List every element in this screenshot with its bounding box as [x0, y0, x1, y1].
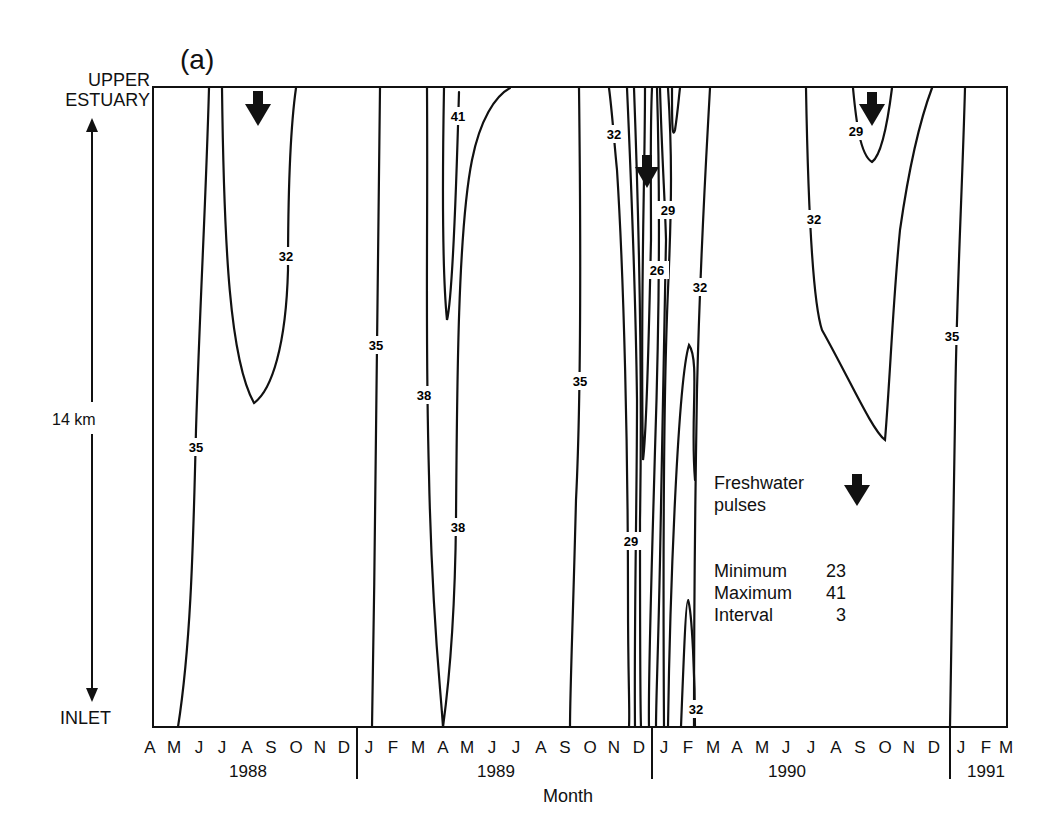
contour-label: 35	[189, 440, 203, 455]
pulse-arrow-icon	[245, 91, 271, 126]
contour-label: 35	[573, 374, 587, 389]
year-label: 1989	[477, 762, 515, 782]
legend-pulses: Freshwater pulses	[714, 472, 804, 516]
month-label: S	[854, 738, 865, 758]
legend-maximum: Maximum 41	[714, 582, 846, 604]
month-label: D	[338, 738, 350, 758]
month-label: N	[903, 738, 915, 758]
legend-pulses-line1: Freshwater	[714, 472, 804, 494]
month-label: M	[755, 738, 769, 758]
month-label: J	[488, 738, 497, 758]
freshwater-pulse-arrows	[245, 91, 885, 506]
month-label: S	[265, 738, 276, 758]
month-label: F	[683, 738, 693, 758]
contour-label: 29	[661, 203, 675, 218]
month-label: F	[388, 738, 398, 758]
contour-label: 26	[650, 263, 664, 278]
month-label: S	[559, 738, 570, 758]
contour-label: 38	[417, 388, 431, 403]
contour-lines	[178, 88, 965, 727]
contour-label: 32	[689, 702, 703, 717]
legend-arrow-icon	[844, 474, 870, 506]
month-label: J	[365, 738, 374, 758]
contour-label: 32	[693, 280, 707, 295]
contour-label: 35	[945, 329, 959, 344]
legend-pulses-line2: pulses	[714, 494, 804, 516]
contour-label: 35	[369, 338, 383, 353]
contour-label: 29	[624, 534, 638, 549]
month-label: A	[830, 738, 841, 758]
month-label: A	[144, 738, 155, 758]
legend-interval: Interval 3	[714, 604, 846, 626]
month-label: M	[999, 738, 1013, 758]
pulse-arrow-icon	[859, 92, 885, 126]
month-label: M	[167, 738, 181, 758]
month-label: O	[878, 738, 891, 758]
month-label: A	[241, 738, 252, 758]
x-axis-title: Month	[543, 786, 593, 807]
month-label: A	[535, 738, 546, 758]
month-label: O	[289, 738, 302, 758]
distance-label: 14 km	[52, 409, 96, 431]
contour-label: 32	[279, 249, 293, 264]
month-label: O	[583, 738, 596, 758]
month-label: N	[608, 738, 620, 758]
month-label: J	[807, 738, 816, 758]
month-label: J	[782, 738, 791, 758]
year-label: 1990	[768, 762, 806, 782]
legend-stats: Minimum 23 Maximum 41 Interval 3	[714, 560, 846, 626]
month-label: D	[633, 738, 645, 758]
month-label: N	[314, 738, 326, 758]
month-label: A	[731, 738, 742, 758]
month-label: F	[981, 738, 991, 758]
month-label: M	[411, 738, 425, 758]
month-label: J	[218, 738, 227, 758]
contour-label: 41	[451, 109, 465, 124]
month-label: J	[957, 738, 966, 758]
month-label: J	[195, 738, 204, 758]
contour-label: 32	[607, 127, 621, 142]
year-label: 1988	[229, 762, 267, 782]
month-label: J	[660, 738, 669, 758]
month-label: D	[928, 738, 940, 758]
year-label: 1991	[967, 762, 1005, 782]
month-label: M	[460, 738, 474, 758]
legend-minimum: Minimum 23	[714, 560, 846, 582]
contour-label: 32	[807, 212, 821, 227]
month-label: A	[437, 738, 448, 758]
contour-label: 29	[849, 124, 863, 139]
month-label: J	[512, 738, 521, 758]
month-label: M	[706, 738, 720, 758]
contour-label: 38	[451, 520, 465, 535]
pulse-arrow-icon	[635, 155, 659, 188]
contour-plot: 32 35 35 41 38 38 35 32 29 26 29 32 32 2…	[0, 0, 1044, 840]
